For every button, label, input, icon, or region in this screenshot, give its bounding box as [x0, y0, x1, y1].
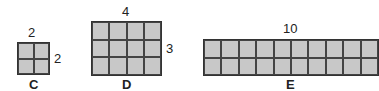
shape-c-width-label: 2	[28, 26, 35, 39]
shape-c-grid	[17, 42, 50, 75]
shape-d-height-label: 3	[166, 42, 173, 55]
shape-e-grid	[203, 39, 379, 76]
shape-e-width-label: 10	[283, 22, 297, 35]
shape-c-height-label: 2	[54, 52, 61, 65]
shape-d-name: D	[122, 78, 131, 91]
shape-d-width-label: 4	[122, 5, 129, 18]
shape-e-name: E	[286, 78, 295, 91]
shape-d-grid	[91, 21, 162, 76]
shape-c-name: C	[29, 78, 38, 91]
